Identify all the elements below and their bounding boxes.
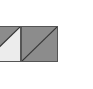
diagonal-split-icon: [22, 27, 57, 61]
diagonal-split-icon: [0, 27, 20, 61]
diagonal-tile-half-filled[interactable]: [0, 26, 21, 62]
diagonal-tile-filled[interactable]: [21, 26, 58, 62]
